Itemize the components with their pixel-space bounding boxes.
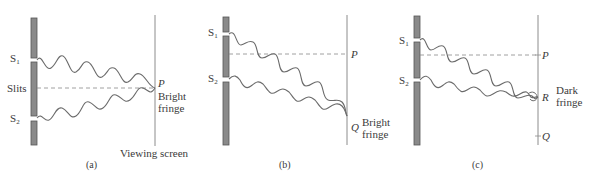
bright-fringe-label-line1: Bright — [158, 90, 186, 102]
point-r-label: R — [541, 91, 549, 103]
panel-c: S1 S2 P R Q Dark fringe (c) — [399, 15, 582, 171]
panel-a: S1 Slits S2 P Bright fringe Viewing scre… — [7, 15, 189, 171]
barrier-top-segment — [414, 16, 420, 38]
bright-fringe-label-line1: Bright — [362, 116, 390, 128]
barrier-top-segment — [31, 18, 37, 58]
barrier-bottom-segment — [223, 82, 229, 145]
slit2-label: S2 — [399, 74, 409, 88]
point-p-label: P — [350, 48, 358, 60]
slit1-label: S1 — [10, 52, 20, 66]
bright-fringe-label-line2: fringe — [158, 102, 184, 114]
wave-from-s1 — [229, 33, 347, 116]
point-p-label: P — [541, 49, 549, 61]
barrier-middle-segment — [31, 62, 37, 116]
dark-fringe-label-line1: Dark — [556, 84, 578, 96]
viewing-screen-label: Viewing screen — [120, 147, 189, 159]
wave-from-s2 — [37, 88, 155, 121]
barrier-bottom-segment — [31, 121, 37, 145]
barrier-middle-segment — [414, 42, 420, 78]
barrier-top-segment — [223, 17, 229, 32]
wave-from-s1 — [37, 56, 155, 88]
slit1-label: S1 — [208, 26, 218, 40]
caption-a: (a) — [86, 159, 97, 171]
panel-b: S1 S2 P Q Bright fringe (b) — [208, 15, 390, 171]
dark-fringe-label-line2: fringe — [556, 96, 582, 108]
double-slit-interference-figure: S1 Slits S2 P Bright fringe Viewing scre… — [0, 0, 590, 180]
point-p-label: P — [157, 77, 165, 89]
point-q-label: Q — [542, 130, 550, 142]
caption-c: (c) — [472, 159, 483, 171]
bright-fringe-label-line2: fringe — [362, 128, 388, 140]
slit2-label: S2 — [208, 72, 218, 86]
slit2-label: S2 — [10, 112, 20, 126]
wave-from-s2 — [420, 76, 538, 98]
barrier-bottom-segment — [414, 82, 420, 145]
wave-from-s2 — [229, 76, 347, 116]
slit1-label: S1 — [399, 34, 409, 48]
slits-label: Slits — [7, 82, 27, 94]
barrier-middle-segment — [223, 36, 229, 77]
caption-b: (b) — [279, 159, 291, 171]
point-q-label: Q — [351, 121, 359, 133]
